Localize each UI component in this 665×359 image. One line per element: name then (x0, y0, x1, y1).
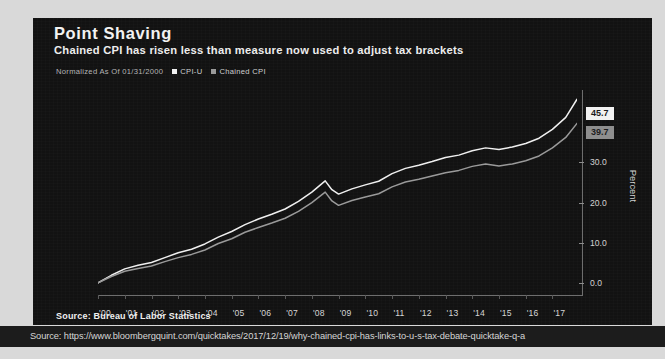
y-tick-10.0 (579, 243, 584, 244)
legend-swatch-chained-cpi (211, 69, 216, 74)
y-tick-0.0 (579, 283, 584, 284)
legend-label-chained-cpi: Chained CPI (219, 67, 265, 76)
x-tick-14 (472, 295, 473, 299)
x-tick-label-16: '16 (527, 308, 539, 318)
x-tick-17 (552, 295, 553, 299)
y-axis-line (582, 90, 583, 296)
x-tick-09 (339, 295, 340, 299)
y-axis-title: Percent (628, 170, 639, 202)
series-lines (98, 90, 577, 295)
x-tick-11 (392, 295, 393, 299)
x-tick-16 (526, 295, 527, 299)
x-tick-01 (125, 295, 126, 299)
x-tick-label-17: '17 (553, 308, 565, 318)
x-tick-label-10: '10 (366, 308, 378, 318)
x-tick-label-05: '05 (233, 308, 245, 318)
x-tick-15 (499, 295, 500, 299)
y-tick-label-10.0: 10.0 (590, 238, 607, 248)
legend-swatch-cpi-u (172, 69, 177, 74)
x-tick-13 (446, 295, 447, 299)
x-tick-00 (98, 295, 99, 299)
legend-normalized-note: Normalized As Of 01/31/2000 (56, 67, 163, 76)
page-background: Point Shaving Chained CPI has risen less… (0, 0, 665, 359)
x-tick-10 (365, 295, 366, 299)
y-tick-label-30.0: 30.0 (590, 157, 607, 167)
value-badge-chained-cpi: 39.7 (586, 126, 614, 139)
chart-panel: Point Shaving Chained CPI has risen less… (33, 18, 652, 325)
x-tick-06 (258, 295, 259, 299)
x-tick-label-08: '08 (313, 308, 325, 318)
legend-label-cpi-u: CPI-U (180, 67, 202, 76)
x-axis-line (98, 295, 582, 296)
y-tick-30.0 (579, 162, 584, 163)
x-tick-label-13: '13 (447, 308, 459, 318)
x-tick-12 (419, 295, 420, 299)
x-tick-label-09: '09 (340, 308, 352, 318)
source-note: Source: Bureau of Labor Statistics (56, 311, 211, 321)
y-tick-label-20.0: 20.0 (590, 198, 607, 208)
source-url-bar[interactable]: Source: https://www.bloombergquint.com/q… (0, 326, 665, 347)
legend-item-chained-cpi[interactable]: Chained CPI (211, 67, 265, 76)
x-tick-label-15: '15 (500, 308, 512, 318)
x-tick-label-12: '12 (420, 308, 432, 318)
legend-item-cpi-u[interactable]: CPI-U (172, 67, 202, 76)
y-tick-20.0 (579, 203, 584, 204)
x-tick-07 (285, 295, 286, 299)
x-tick-03 (178, 295, 179, 299)
y-tick-label-0.0: 0.0 (590, 278, 602, 288)
series-line-chained-cpi (98, 123, 577, 283)
chart-title: Point Shaving (54, 24, 172, 43)
x-tick-02 (152, 295, 153, 299)
x-tick-05 (232, 295, 233, 299)
x-tick-label-06: '06 (259, 308, 271, 318)
x-tick-04 (205, 295, 206, 299)
chart-legend: Normalized As Of 01/31/2000 CPI-U Chaine… (56, 67, 266, 76)
x-tick-08 (312, 295, 313, 299)
x-tick-label-14: '14 (473, 308, 485, 318)
x-tick-label-11: '11 (393, 308, 404, 318)
series-line-cpi-u (98, 99, 577, 283)
plot-area (98, 90, 577, 295)
x-tick-label-07: '07 (286, 308, 298, 318)
chart-subtitle: Chained CPI has risen less than measure … (54, 44, 463, 56)
value-badge-cpi-u: 45.7 (586, 107, 614, 120)
